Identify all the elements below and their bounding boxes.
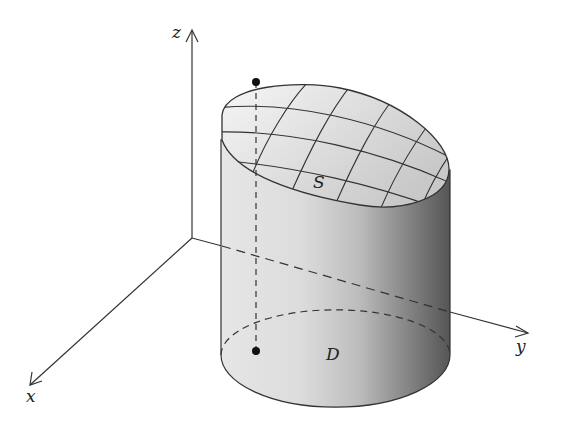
region-point [252, 347, 260, 355]
surface-integral-diagram: z x y S D [0, 0, 564, 424]
x-label: x [26, 386, 36, 406]
x-axis [30, 238, 192, 385]
y-label: y [515, 336, 526, 356]
z-label: z [171, 22, 182, 42]
region-label: D [325, 344, 340, 364]
surface-label: S [313, 172, 325, 192]
axes [30, 30, 222, 385]
surface-point [252, 78, 260, 86]
y-axis-near [192, 238, 222, 246]
